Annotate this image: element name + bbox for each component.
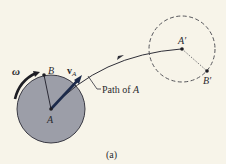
point-b-label: B [48, 65, 54, 76]
velocity-label: vA [67, 65, 77, 78]
point-b-prime-dot [205, 69, 209, 73]
path-label-leader [88, 76, 101, 89]
path-direction-arrowhead-icon [117, 55, 124, 60]
point-a-dot [49, 107, 53, 111]
velocity-subscript: A [71, 70, 77, 78]
radius-line-a-prime-b-prime [182, 49, 207, 71]
rigid-body-translation-diagram: ω B vA A Path of A A′ B′ (a) [0, 0, 226, 164]
point-a-prime-dot [180, 47, 184, 51]
path-label-prefix: Path of [102, 84, 133, 95]
path-of-a-label: Path of A [102, 84, 140, 95]
point-b-prime-label: B′ [203, 75, 212, 86]
point-b-dot [42, 73, 46, 77]
point-a-prime-label: A′ [177, 35, 187, 46]
omega-label: ω [12, 65, 20, 77]
angular-velocity-arrowhead-icon [33, 71, 40, 77]
figure-caption: (a) [106, 149, 117, 161]
path-label-point: A [132, 84, 140, 95]
point-a-label: A [46, 114, 54, 125]
